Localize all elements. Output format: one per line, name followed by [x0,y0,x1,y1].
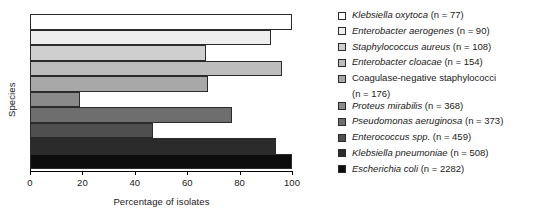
legend-item: Proteus mirabilis (n = 368) [338,100,544,115]
legend-swatch-icon [338,165,346,173]
legend-count: (n = 368) [422,100,463,111]
bar-row [30,14,330,30]
bar [30,14,292,30]
legend-swatch-icon [338,102,346,110]
legend-species-name: Pseudomonas aeruginosa [352,115,462,126]
legend-item: Staphylococcus aureus (n = 108) [338,41,544,56]
legend-species-name: Klebsiella pneumoniae [352,147,448,158]
legend-swatch-icon [338,12,346,20]
x-axis-tick-label: 100 [284,177,300,188]
legend-species-name: Klebsiella oxytoca [352,9,428,20]
legend-swatch-icon [338,27,346,35]
legend-count: (n = 108) [450,41,491,52]
legend-item: Coagulase-negative staphylococci [338,72,544,87]
x-axis-tick [187,171,188,175]
legend-count: (n = 154) [442,56,483,67]
legend-species-name: Staphylococcus aureus [352,41,450,52]
legend-count: (n = 508) [448,147,489,158]
bar [30,76,208,92]
legend-swatch-icon [338,75,346,83]
legend-label: Klebsiella pneumoniae (n = 508) [352,147,489,159]
legend-item: Klebsiella pneumoniae (n = 508) [338,147,544,162]
bar [30,61,282,77]
legend-count: (n = 176) [352,88,544,100]
legend-label: Proteus mirabilis (n = 368) [352,100,463,112]
bar-row [30,138,330,154]
bar [30,138,276,154]
legend-label: Enterobacter aerogenes (n = 90) [352,25,490,37]
legend-item: Klebsiella oxytoca (n = 77) [338,9,544,24]
legend-label: Escherichia coli (n = 2282) [352,163,464,175]
legend-item: Enterobacter cloacae (n = 154) [338,56,544,71]
legend-item: Pseudomonas aeruginosa (n = 373) [338,115,544,130]
legend-species-name: Enterobacter cloacae [352,56,442,67]
x-axis-tick-label: 60 [182,177,193,188]
x-axis-tick [135,171,136,175]
legend-swatch-icon [338,43,346,51]
legend-count: (n = 373) [462,115,503,126]
legend-species-name: Proteus mirabilis [352,100,422,111]
bar-series [30,14,330,169]
bar-row [30,123,330,139]
legend-item: Enterococcus spp. (n = 459) [338,131,544,146]
legend-swatch-icon [338,59,346,67]
x-axis-tick [240,171,241,175]
legend-species-name: Escherichia coli [352,163,418,174]
bar-row [30,61,330,77]
legend-item: Enterobacter aerogenes (n = 90) [338,25,544,40]
legend-count: (n = 2282) [418,163,464,174]
legend-swatch-icon [338,149,346,157]
bar [30,123,153,139]
legend-swatch-icon [338,134,346,142]
legend-label: Staphylococcus aureus (n = 108) [352,41,491,53]
x-axis-tick-label: 20 [77,177,88,188]
bar-row [30,30,330,46]
x-axis-tick-label: 80 [234,177,245,188]
legend-count: (n = 77) [428,9,464,20]
bar [30,107,232,123]
x-axis-tick-label: 40 [130,177,141,188]
y-axis-title: Species [4,60,18,140]
legend-species-name: Enterococcus spp. [352,131,430,142]
x-axis-title: Percentage of isolates [30,196,293,207]
bar-row [30,154,330,170]
bar-row [30,107,330,123]
legend-label: Coagulase-negative staphylococci [352,72,496,84]
chart-legend: Klebsiella oxytoca (n = 77)Enterobacter … [338,9,544,178]
chart-page: Species 020406080100 Percentage of isola… [0,0,544,223]
legend-count: (n = 90) [454,25,490,36]
bar-chart-plot: Species 020406080100 Percentage of isola… [0,0,330,223]
legend-label: Pseudomonas aeruginosa (n = 373) [352,115,503,127]
bar-row [30,92,330,108]
legend-label: Enterobacter cloacae (n = 154) [352,56,483,68]
x-axis-tick [30,171,31,175]
legend-item: Escherichia coli (n = 2282) [338,163,544,178]
x-axis-tick [82,171,83,175]
bar [30,92,80,108]
bar-row [30,76,330,92]
legend-count: (n = 459) [430,131,471,142]
x-axis-tick [292,171,293,175]
bar [30,45,206,61]
legend-species-name: Enterobacter aerogenes [352,25,454,36]
legend-label: Klebsiella oxytoca (n = 77) [352,9,464,21]
legend-label: Enterococcus spp. (n = 459) [352,131,471,143]
x-axis-line [30,171,293,172]
x-axis-tick-label: 0 [27,177,32,188]
bar [30,154,292,170]
legend-swatch-icon [338,118,346,126]
bar-row [30,45,330,61]
legend-species-name: Coagulase-negative staphylococci [352,72,496,83]
bar [30,30,271,46]
